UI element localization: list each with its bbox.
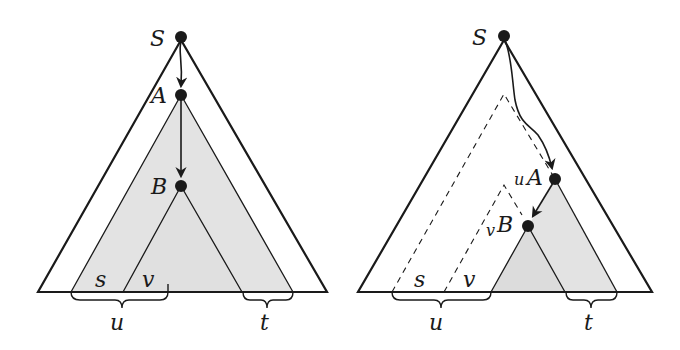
right-label-b: B [496,212,513,237]
right-outer-tree [358,40,652,292]
left-brace-label-t: t [260,310,269,335]
right-node-b [522,220,534,232]
right-brace-label-u: u [429,310,443,335]
right-brace-t [566,292,617,308]
right-label-a-prefix: u [514,170,524,189]
left-label-b: B [150,174,167,199]
right-node-s [498,30,510,42]
right-diagram: S u A v B s v u t [358,25,652,335]
right-label-s: S [472,25,487,50]
right-label-a: A [525,165,543,190]
left-arrow-s-to-a [180,42,181,86]
right-node-a [549,173,561,185]
left-node-s [175,31,187,43]
left-label-s: S [150,26,165,51]
left-brace-t [243,292,293,308]
right-leaf-s: s [414,267,425,292]
right-brace-label-t: t [584,310,593,335]
left-leaf-v: v [142,267,155,292]
right-leaf-v: v [463,267,476,292]
left-leaf-s: s [95,267,106,292]
left-node-b [175,180,187,192]
left-diagram: S A B s v u t [38,26,327,335]
right-brace-u [392,292,491,308]
tree-diagrams: S A B s v u t S u A [0,0,680,350]
left-label-a: A [149,83,167,108]
right-arrow-s-to-a [505,40,552,168]
left-brace-label-u: u [110,310,124,335]
right-label-b-prefix: v [486,221,495,240]
left-node-a [175,89,187,101]
